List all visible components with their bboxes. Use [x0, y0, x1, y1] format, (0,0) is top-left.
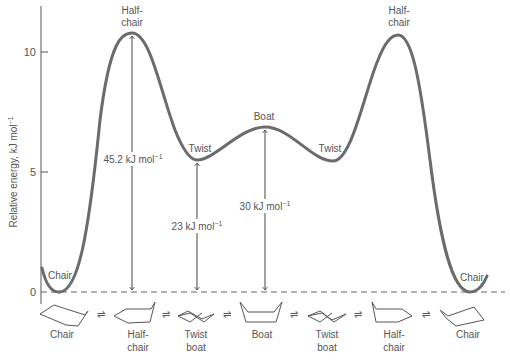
- boat-structure-icon: [240, 302, 282, 322]
- point-twist-right: Twist: [319, 143, 342, 154]
- point-halfchair-right-1: Half-: [388, 5, 409, 16]
- svg-text:chair: chair: [383, 342, 405, 353]
- svg-text:Twist: Twist: [316, 329, 339, 340]
- point-boat: Boat: [254, 111, 275, 122]
- svg-text:chair: chair: [127, 342, 149, 353]
- svg-text:boat: boat: [317, 342, 337, 353]
- structure-labels: Chair Half- chair Twist boat Boat Twist …: [50, 329, 481, 353]
- svg-text:boat: boat: [186, 342, 206, 353]
- equilibrium-icon: ⇌: [97, 309, 105, 320]
- svg-text:Half-: Half-: [127, 329, 148, 340]
- ytick-0: 0: [30, 286, 36, 298]
- equilibrium-icon: ⇌: [290, 309, 298, 320]
- point-twist-left: Twist: [189, 143, 212, 154]
- point-halfchair-right-2: chair: [388, 17, 410, 28]
- equilibrium-arrows: ⇌ ⇌ ⇌ ⇌ ⇌ ⇌: [97, 309, 430, 320]
- point-chair-right: Chair: [460, 272, 485, 283]
- svg-text:Chair: Chair: [50, 329, 75, 340]
- svg-text:Half-: Half-: [383, 329, 404, 340]
- equilibrium-icon: ⇌: [354, 309, 362, 320]
- equilibrium-icon: ⇌: [162, 309, 170, 320]
- structures-row: [40, 302, 484, 326]
- point-chair-left: Chair: [48, 270, 73, 281]
- y-axis-label: Relative energy, kJ mol−1: [7, 116, 19, 227]
- energy-diagram: 10 5 0 Relative energy, kJ mol−1 45.2 kJ…: [0, 0, 510, 360]
- twistboat-structure-icon: [178, 311, 214, 322]
- y-axis: 10 5 0 Relative energy, kJ mol−1: [7, 6, 48, 304]
- equilibrium-icon: ⇌: [223, 309, 231, 320]
- point-halfchair-left-1: Half-: [121, 5, 142, 16]
- svg-text:Chair: Chair: [456, 329, 481, 340]
- svg-text:Boat: Boat: [252, 329, 273, 340]
- halfchair-structure-icon: [372, 302, 412, 322]
- point-halfchair-left-2: chair: [121, 17, 143, 28]
- halfchair-structure-icon: [114, 302, 155, 323]
- svg-text:Twist: Twist: [185, 329, 208, 340]
- ytick-10: 10: [24, 46, 36, 58]
- equilibrium-icon: ⇌: [422, 309, 430, 320]
- chair-structure-icon: [440, 307, 484, 326]
- chair-structure-icon: [40, 305, 88, 326]
- label-45kj: 45.2 kJ mol−1: [103, 153, 162, 165]
- ytick-5: 5: [30, 166, 36, 178]
